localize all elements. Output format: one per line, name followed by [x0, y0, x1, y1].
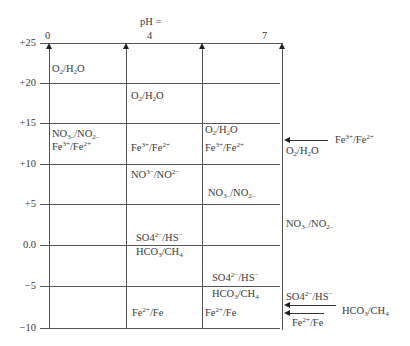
ph-column-line — [126, 45, 127, 328]
grid-line — [40, 286, 280, 287]
redox-couple-label: SO42−/HS− — [136, 232, 182, 244]
redox-couple-label: NO3–/NO2– — [286, 218, 333, 230]
arrow-up-icon — [199, 43, 205, 49]
arrow-up-icon — [123, 43, 129, 49]
redox-couple-label: HCO3/CH4 — [212, 288, 259, 300]
grid-line — [40, 83, 280, 84]
redox-couple-label: Fe3+/Fe2+ — [205, 142, 244, 154]
grid-line — [40, 123, 280, 124]
arrow-left-icon — [284, 302, 290, 308]
ph-tick-label: 4 — [147, 30, 152, 42]
redox-couple-label: NO3–/NO2– — [52, 128, 99, 140]
y-tick-label: 0.0 — [2, 239, 36, 251]
redox-couple-label: HCO3/CH4 — [136, 246, 183, 258]
fe3-fe2-arrow — [287, 140, 328, 141]
redox-couple-label: SO42−/HS− — [212, 272, 258, 284]
fe2-fe-arrow — [287, 313, 324, 314]
y-tick-label: +5 — [2, 198, 36, 210]
redox-couple-label: Fe3+/Fe2+ — [335, 134, 374, 146]
redox-couple-label: Fe2+/Fe — [292, 317, 323, 329]
ph-axis-title: pH = — [140, 16, 161, 28]
redox-couple-label: O2/H2O — [52, 63, 85, 75]
y-tick-label: +10 — [2, 158, 36, 170]
redox-couple-label: NO3–/NO2– — [208, 187, 255, 199]
redox-couple-label: HCO3/CH4 — [342, 305, 389, 317]
grid-line — [40, 204, 280, 205]
ph-tick-label: 7 — [262, 30, 267, 42]
grid-line — [40, 43, 283, 44]
redox-couple-label: O2/H2O — [286, 145, 319, 157]
ph-column-line — [202, 45, 203, 328]
ph-column-line — [282, 45, 283, 330]
redox-couple-label: Fe3+/Fe2+ — [131, 142, 170, 154]
y-tick-label: +15 — [2, 117, 36, 129]
y-tick-label: +20 — [2, 77, 36, 89]
grid-line — [40, 328, 280, 329]
redox-couple-label: O2/H2O — [131, 90, 164, 102]
arrow-up-icon — [46, 43, 52, 49]
grid-line — [40, 164, 280, 165]
arrow-up-icon — [279, 43, 285, 49]
redox-couple-label: O2/H2O — [205, 124, 238, 136]
y-tick-label: −5 — [2, 280, 36, 292]
arrow-left-icon — [284, 310, 290, 316]
y-tick-label: −10 — [2, 322, 36, 334]
ph-tick-label: 0 — [45, 30, 50, 42]
hco3-ch4-arrow — [287, 305, 336, 306]
redox-couple-label: Fe2+/Fe — [205, 307, 236, 319]
redox-couple-label: Fe3+/Fe2+ — [52, 141, 91, 153]
redox-couple-label: NO3−/NO2− — [131, 169, 179, 181]
ph-column-line — [49, 45, 50, 328]
y-tick-label: +25 — [2, 37, 36, 49]
redox-couple-label: Fe2+/Fe — [132, 307, 163, 319]
arrow-left-icon — [284, 137, 290, 143]
redox-couple-label: SO42−/HS− — [286, 291, 332, 303]
